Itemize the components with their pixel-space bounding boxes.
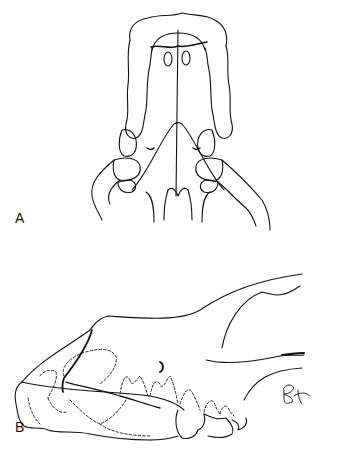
artist-signature	[284, 385, 310, 404]
panel-label-b: B	[15, 419, 24, 435]
skull-illustration	[0, 0, 339, 449]
panel-label-a: A	[15, 210, 24, 226]
panel-a-drawing	[92, 13, 270, 230]
panel-b-drawing	[15, 274, 310, 440]
figure-caption-illegible	[6, 441, 121, 446]
